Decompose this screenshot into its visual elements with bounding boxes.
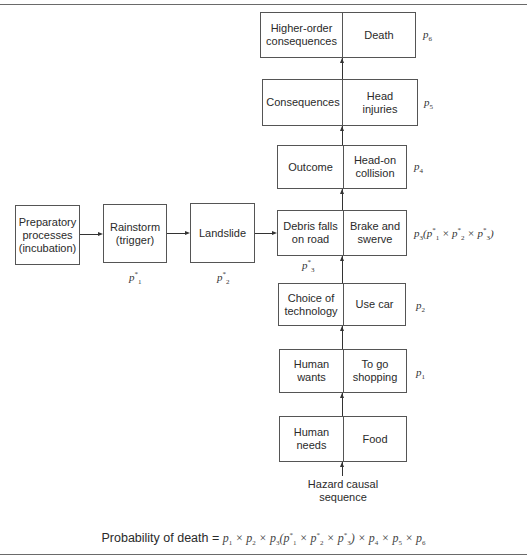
box-text: Preparatory processes (incubation) bbox=[16, 206, 79, 264]
cell-label: Human wants bbox=[280, 350, 343, 392]
cell-label: Outcome bbox=[278, 146, 343, 188]
cell-label: Higher-order consequences bbox=[261, 13, 342, 57]
box-outcome: Outcome Head-on collision bbox=[277, 145, 407, 189]
arrow-up-icon bbox=[340, 462, 344, 467]
box-higher-order-consequences: Higher-order consequences Death bbox=[260, 12, 416, 58]
p2-star-label: p*2 bbox=[217, 270, 230, 286]
arrow-up-icon bbox=[340, 189, 344, 194]
p2-label: p2 bbox=[416, 299, 425, 314]
arrow-up-icon bbox=[340, 326, 344, 331]
cell-label: Debris falls on road bbox=[278, 211, 343, 255]
arrow-up-icon bbox=[340, 58, 344, 63]
box-human-wants: Human wants To go shopping bbox=[279, 349, 407, 393]
p6-label: p6 bbox=[423, 28, 432, 43]
cell-value: Head-on collision bbox=[344, 146, 406, 188]
cell-value: Food bbox=[344, 417, 406, 461]
cell-label: Human needs bbox=[280, 417, 343, 461]
box-text: Landslide bbox=[191, 204, 254, 262]
arrow-right-icon bbox=[272, 231, 277, 235]
p4-label: p4 bbox=[414, 160, 423, 175]
cell-value: Death bbox=[343, 13, 415, 57]
cell-value: Head injuries bbox=[343, 80, 417, 125]
arrow-up-icon bbox=[340, 126, 344, 131]
arrow-up-icon bbox=[340, 256, 344, 261]
p1-star-label: p*1 bbox=[129, 270, 142, 286]
p3-compound-label: p3(p*1 × p*2 × p*3) bbox=[414, 226, 494, 242]
box-choice-of-technology: Choice of technology Use car bbox=[278, 283, 406, 326]
cell-value: To go shopping bbox=[344, 350, 406, 392]
hazard-causal-sequence-label: Hazard causal sequence bbox=[303, 478, 383, 504]
formula-rhs: p1 × p2 × p3(p*1 × p*2 × p*3) × p4 × p5 … bbox=[223, 531, 426, 545]
bottom-rule bbox=[0, 554, 527, 555]
box-human-needs: Human needs Food bbox=[279, 416, 407, 462]
formula-lhs: Probability of death bbox=[101, 531, 208, 545]
cell-value: Use car bbox=[344, 284, 405, 325]
box-preparatory-processes: Preparatory processes (incubation) bbox=[15, 205, 80, 265]
box-landslide: Landslide bbox=[190, 203, 255, 263]
cell-label: Consequences bbox=[263, 80, 343, 125]
connector-line bbox=[167, 233, 185, 234]
top-rule bbox=[0, 4, 527, 5]
p3-star-label: p*3 bbox=[302, 258, 315, 274]
p5-label: p5 bbox=[424, 96, 433, 111]
cell-label: Choice of technology bbox=[279, 284, 343, 325]
box-text: Rainstorm (trigger) bbox=[104, 205, 166, 262]
box-consequences: Consequences Head injuries bbox=[262, 79, 418, 126]
box-debris: Debris falls on road Brake and swerve bbox=[277, 210, 407, 256]
connector-line bbox=[80, 234, 98, 235]
probability-formula: Probability of death = p1 × p2 × p3(p*1 … bbox=[0, 531, 527, 547]
p1-label: p1 bbox=[416, 366, 425, 381]
arrow-up-icon bbox=[340, 393, 344, 398]
cell-value: Brake and swerve bbox=[344, 211, 406, 255]
box-rainstorm: Rainstorm (trigger) bbox=[103, 204, 167, 263]
connector-line bbox=[255, 233, 272, 234]
